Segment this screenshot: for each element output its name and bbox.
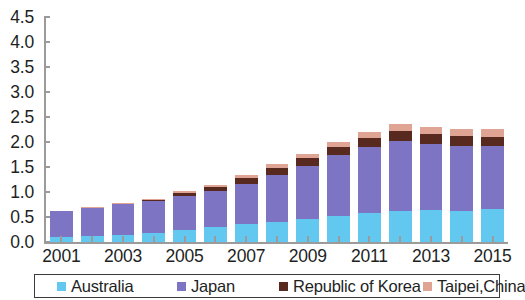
bar-slot[interactable] bbox=[446, 17, 477, 242]
legend-swatch-icon bbox=[57, 282, 66, 291]
y-tick-label: 2.0 bbox=[10, 132, 34, 153]
bar-segment-japan[interactable] bbox=[142, 201, 165, 234]
bar-stack[interactable] bbox=[481, 129, 504, 243]
x-tick-mark bbox=[60, 236, 62, 243]
bar-stack[interactable] bbox=[358, 132, 381, 242]
x-tick-mark bbox=[184, 236, 186, 243]
x-tick-mark bbox=[307, 236, 309, 243]
x-tick-mark bbox=[91, 236, 93, 243]
bar-segment-taipei-china[interactable] bbox=[450, 129, 473, 137]
bar-stack[interactable] bbox=[420, 127, 443, 242]
legend-item[interactable]: Taipei,China bbox=[423, 278, 525, 295]
legend-label: Taipei,China bbox=[437, 278, 525, 295]
bar-stack[interactable] bbox=[296, 154, 319, 242]
bar-segment-republic-of-korea[interactable] bbox=[420, 134, 443, 144]
bar-segment-republic-of-korea[interactable] bbox=[481, 137, 504, 146]
y-axis: 0.00.51.01.52.02.53.03.54.04.5 bbox=[0, 10, 46, 248]
bar-slot[interactable] bbox=[416, 17, 447, 242]
bar-stack[interactable] bbox=[266, 164, 289, 242]
legend-label: Republic of Korea bbox=[293, 278, 421, 295]
bar-segment-taipei-china[interactable] bbox=[481, 129, 504, 137]
chart-legend: AustraliaJapanRepublic of KoreaTaipei,Ch… bbox=[34, 274, 500, 298]
bar-slot[interactable] bbox=[262, 17, 293, 242]
bar-slot[interactable] bbox=[477, 17, 508, 242]
bar-segment-japan[interactable] bbox=[112, 204, 135, 235]
bar-stack[interactable] bbox=[235, 175, 258, 243]
bar-segment-japan[interactable] bbox=[204, 191, 227, 227]
bar-slot[interactable] bbox=[323, 17, 354, 242]
bar-segment-japan[interactable] bbox=[81, 208, 104, 237]
bar-slot[interactable] bbox=[292, 17, 323, 242]
x-tick-label: 2009 bbox=[289, 246, 327, 267]
bar-segment-republic-of-korea[interactable] bbox=[450, 136, 473, 146]
x-tick-label: 2013 bbox=[412, 246, 450, 267]
legend-item[interactable]: Republic of Korea bbox=[279, 278, 421, 295]
y-tick-label: 3.5 bbox=[10, 57, 34, 78]
x-tick-label: 2001 bbox=[42, 246, 80, 267]
bar-segment-japan[interactable] bbox=[173, 196, 196, 230]
bar-slot[interactable] bbox=[77, 17, 108, 242]
bar-slot[interactable] bbox=[46, 17, 77, 242]
y-tick-label: 4.5 bbox=[10, 7, 34, 28]
bar-slot[interactable] bbox=[169, 17, 200, 242]
bar-segment-japan[interactable] bbox=[389, 141, 412, 211]
bar-slot[interactable] bbox=[231, 17, 262, 242]
bar-slot[interactable] bbox=[108, 17, 139, 242]
y-tick-label: 3.0 bbox=[10, 82, 34, 103]
bar-stack[interactable] bbox=[389, 124, 412, 243]
x-tick-mark bbox=[399, 236, 401, 243]
bar-segment-japan[interactable] bbox=[50, 211, 73, 237]
x-tick-mark bbox=[430, 236, 432, 243]
x-tick-mark bbox=[214, 236, 216, 243]
bar-segment-japan[interactable] bbox=[420, 144, 443, 211]
bar-segment-japan[interactable] bbox=[481, 146, 504, 210]
x-tick-mark bbox=[461, 236, 463, 243]
x-tick-label: 2005 bbox=[166, 246, 204, 267]
bar-segment-japan[interactable] bbox=[296, 166, 319, 219]
plot-area bbox=[46, 17, 508, 242]
x-tick-mark bbox=[276, 236, 278, 243]
legend-swatch-icon bbox=[279, 282, 288, 291]
legend-swatch-icon bbox=[177, 282, 186, 291]
legend-label: Australia bbox=[71, 278, 133, 295]
bar-segment-republic-of-korea[interactable] bbox=[296, 158, 319, 166]
x-tick-mark bbox=[492, 236, 494, 243]
bar-stack[interactable] bbox=[204, 185, 227, 243]
bar-slot[interactable] bbox=[354, 17, 385, 242]
bar-slot[interactable] bbox=[200, 17, 231, 242]
bar-slot[interactable] bbox=[385, 17, 416, 242]
bar-segment-taipei-china[interactable] bbox=[389, 124, 412, 131]
bar-segment-republic-of-korea[interactable] bbox=[358, 138, 381, 147]
bar-segment-republic-of-korea[interactable] bbox=[327, 147, 350, 156]
x-tick-mark bbox=[122, 236, 124, 243]
x-tick-mark bbox=[153, 236, 155, 243]
bar-segment-japan[interactable] bbox=[235, 184, 258, 224]
x-tick-label: 2003 bbox=[104, 246, 142, 267]
x-tick-label: 2007 bbox=[227, 246, 265, 267]
bar-stack[interactable] bbox=[173, 191, 196, 242]
legend-item[interactable]: Australia bbox=[57, 278, 133, 295]
bar-segment-japan[interactable] bbox=[266, 175, 289, 222]
x-tick-mark bbox=[368, 236, 370, 243]
bar-slot[interactable] bbox=[138, 17, 169, 242]
bar-segment-japan[interactable] bbox=[358, 147, 381, 213]
bar-segment-republic-of-korea[interactable] bbox=[389, 131, 412, 141]
y-tick-label: 0.5 bbox=[10, 207, 34, 228]
bar-segment-japan[interactable] bbox=[327, 155, 350, 216]
bar-segment-taipei-china[interactable] bbox=[420, 127, 443, 134]
bar-stack[interactable] bbox=[450, 129, 473, 243]
legend-swatch-icon bbox=[423, 282, 432, 291]
y-tick-label: 4.0 bbox=[10, 32, 34, 53]
y-tick-label: 1.0 bbox=[10, 182, 34, 203]
bar-segment-japan[interactable] bbox=[450, 146, 473, 211]
y-tick-label: 1.5 bbox=[10, 157, 34, 178]
legend-item[interactable]: Japan bbox=[177, 278, 235, 295]
bar-segment-republic-of-korea[interactable] bbox=[266, 168, 289, 176]
y-tick-label: 2.5 bbox=[10, 107, 34, 128]
x-tick-mark bbox=[338, 236, 340, 243]
x-tick-label: 2011 bbox=[351, 246, 388, 267]
legend-label: Japan bbox=[191, 278, 235, 295]
y-tick-label: 0.0 bbox=[10, 232, 34, 253]
x-tick-label: 2015 bbox=[474, 246, 512, 267]
bar-stack[interactable] bbox=[327, 142, 350, 243]
